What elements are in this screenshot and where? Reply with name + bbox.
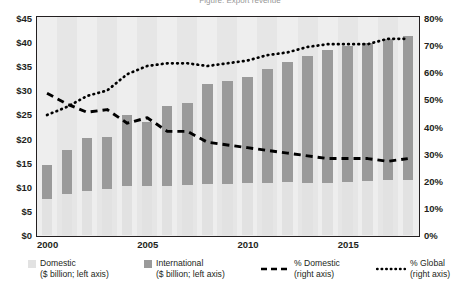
dashed-line-icon <box>260 259 290 267</box>
x-tick: 2010 <box>237 239 258 250</box>
legend-sublabel: ($ billion; left axis) <box>156 269 248 280</box>
line-overlay <box>37 17 418 235</box>
dotted-line-icon <box>376 259 406 267</box>
y-tick-right: 40% <box>424 121 458 132</box>
y-tick-left: $10 <box>0 182 32 193</box>
y-tick-left: $40 <box>0 36 32 47</box>
line-pct-global <box>47 39 408 115</box>
chart-title: Figure: Export revenue <box>150 0 330 6</box>
legend-label: % Domestic <box>294 258 340 269</box>
y-tick-left: $15 <box>0 157 32 168</box>
y-tick-right: 80% <box>424 12 458 23</box>
legend: Domestic ($ billion; left axis) Internat… <box>28 258 458 294</box>
international-swatch-icon <box>144 260 152 268</box>
legend-sublabel: (right axis) <box>294 269 364 280</box>
line-pct-domestic <box>47 93 408 161</box>
y-tick-right: 30% <box>424 148 458 159</box>
y-tick-left: $5 <box>0 206 32 217</box>
x-tick: 2015 <box>338 239 359 250</box>
y-tick-left: $45 <box>0 12 32 23</box>
legend-item-international: International ($ billion; left axis) <box>144 258 248 279</box>
y-tick-right: 70% <box>424 39 458 50</box>
legend-label: Domestic <box>40 258 76 269</box>
legend-label: % Global <box>410 258 445 269</box>
legend-item-pct-global: % Global (right axis) <box>376 258 461 279</box>
legend-item-domestic: Domestic ($ billion; left axis) <box>28 258 132 279</box>
y-tick-left: $20 <box>0 133 32 144</box>
chart-root: Figure: Export revenue Domestic ($ billi… <box>0 0 461 298</box>
y-tick-right: 60% <box>424 67 458 78</box>
y-tick-left: $35 <box>0 61 32 72</box>
plot-inner <box>37 17 419 236</box>
y-tick-right: 50% <box>424 94 458 105</box>
y-tick-right: 20% <box>424 175 458 186</box>
legend-sublabel: (right axis) <box>410 269 461 280</box>
x-tick: 2000 <box>37 239 58 250</box>
y-tick-left: $0 <box>0 230 32 241</box>
y-tick-left: $25 <box>0 109 32 120</box>
x-tick: 2005 <box>137 239 158 250</box>
plot-area <box>36 16 420 237</box>
legend-item-pct-domestic: % Domestic (right axis) <box>260 258 364 279</box>
domestic-swatch-icon <box>28 260 36 268</box>
legend-sublabel: ($ billion; left axis) <box>40 269 132 280</box>
y-tick-right: 10% <box>424 203 458 214</box>
y-tick-right: 0% <box>424 230 458 241</box>
legend-label: International <box>156 258 203 269</box>
y-tick-left: $30 <box>0 85 32 96</box>
